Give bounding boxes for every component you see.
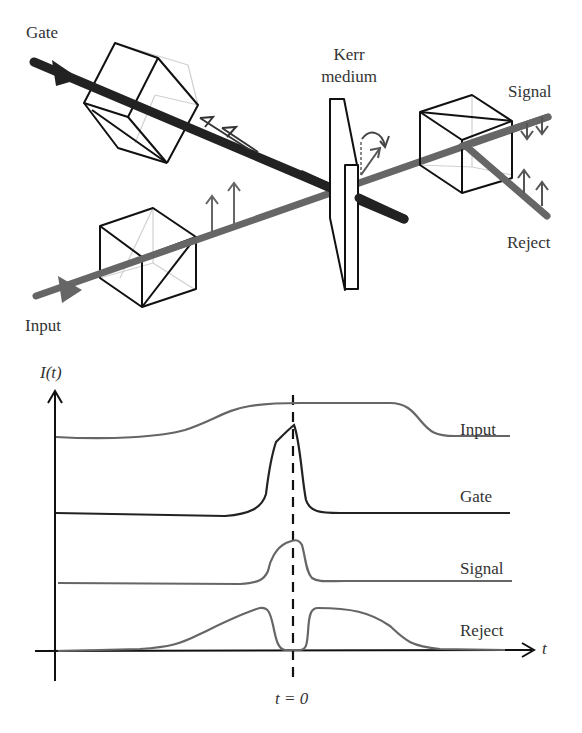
gate-label: Gate [26,23,58,43]
input-label: Input [25,316,61,336]
kerr-rotation-indicator [361,133,389,175]
gate-curve-label: Gate [460,487,492,507]
kerr-medium-plate [330,99,358,290]
kerr-label-line1: Kerr [314,45,384,65]
x-axis-label: t [542,639,547,659]
y-axis-label: I(t) [40,363,62,383]
input-curve [56,403,510,438]
signal-beam [462,117,548,146]
kerr-label-line2: medium [305,67,393,87]
gate-beam-exit [359,198,404,219]
signal-label: Signal [508,82,551,102]
signal-curve-label: Signal [460,559,503,579]
reject-label: Reject [507,233,550,253]
signal-curve [58,540,512,584]
reject-curve [58,608,505,651]
t0-label: t = 0 [275,689,308,709]
input-curve-label: Input [460,420,496,440]
reject-curve-label: Reject [460,621,503,641]
optical-setup-diagram [34,43,548,307]
reject-beam [467,147,547,216]
